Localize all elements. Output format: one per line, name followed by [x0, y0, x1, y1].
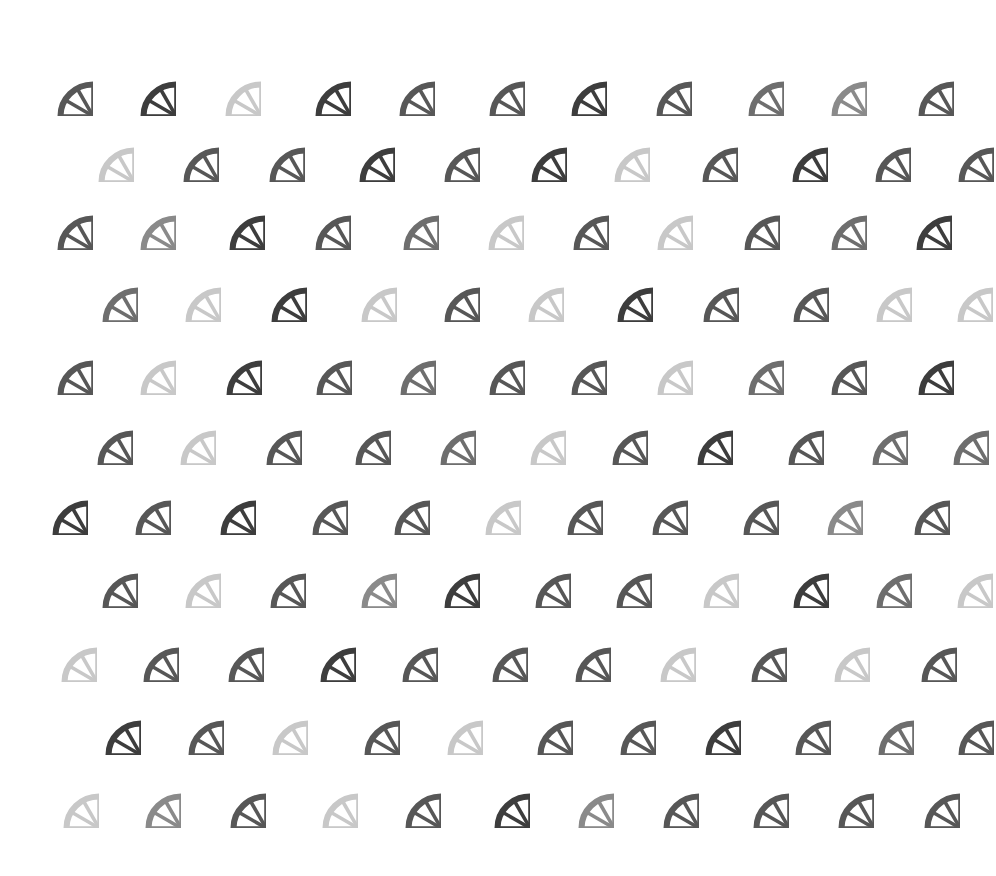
- wagon-wheel-icon: [194, 758, 266, 828]
- wagon-wheel-icon: [535, 46, 607, 116]
- wagon-wheel-icon: [233, 112, 305, 182]
- wagon-wheel-icon: [581, 252, 653, 322]
- wagon-wheel-icon: [627, 758, 699, 828]
- wagon-wheel-icon: [364, 325, 436, 395]
- wagon-wheel-icon: [922, 685, 994, 755]
- wagon-wheel-icon: [578, 112, 650, 182]
- wagon-wheel-icon: [624, 612, 696, 682]
- wagon-wheel-icon: [616, 465, 688, 535]
- wagon-wheel-icon: [885, 612, 957, 682]
- wagon-wheel-icon: [791, 465, 863, 535]
- wagon-wheel-icon: [66, 538, 138, 608]
- wagon-wheel-icon: [152, 685, 224, 755]
- wagon-wheel-icon: [712, 46, 784, 116]
- wagon-wheel-icon: [189, 46, 261, 116]
- wagon-wheel-icon: [535, 325, 607, 395]
- wagon-wheel-icon: [458, 758, 530, 828]
- wagon-wheel-icon: [501, 685, 573, 755]
- wagon-wheel-icon: [495, 112, 567, 182]
- wagon-wheel-icon: [286, 758, 358, 828]
- wagon-wheel-icon: [27, 758, 99, 828]
- wagon-wheel-icon: [917, 395, 989, 465]
- wagon-wheel-icon: [621, 180, 693, 250]
- wagon-wheel-icon: [190, 325, 262, 395]
- wagon-wheel-icon: [279, 180, 351, 250]
- wagon-wheel-icon: [708, 180, 780, 250]
- wagon-wheel-icon: [888, 758, 960, 828]
- wagon-wheel-icon: [542, 758, 614, 828]
- wagon-wheel-icon: [580, 538, 652, 608]
- wagon-wheel-icon: [576, 395, 648, 465]
- wagon-wheel-icon: [492, 252, 564, 322]
- wagon-wheel-icon: [882, 46, 954, 116]
- wagon-wheel-icon: [149, 538, 221, 608]
- wagon-wheel-icon: [839, 112, 911, 182]
- wagon-wheel-icon: [234, 538, 306, 608]
- wagon-wheel-icon: [452, 180, 524, 250]
- wagon-wheel-icon: [878, 465, 950, 535]
- wagon-wheel-icon: [840, 252, 912, 322]
- wagon-wheel-icon: [499, 538, 571, 608]
- wagon-wheel-icon: [280, 325, 352, 395]
- wagon-wheel-icon: [21, 46, 93, 116]
- wagon-wheel-icon: [921, 252, 993, 322]
- wagon-wheel-icon: [25, 612, 97, 682]
- wagon-wheel-icon: [61, 395, 133, 465]
- wagon-wheel-icon: [842, 685, 914, 755]
- wagon-wheel-icon: [404, 395, 476, 465]
- wagon-wheel-icon: [367, 180, 439, 250]
- wagon-wheel-icon: [184, 465, 256, 535]
- wagon-wheel-icon: [408, 112, 480, 182]
- wagon-wheel-icon: [707, 465, 779, 535]
- wagon-wheel-icon: [192, 612, 264, 682]
- wagon-wheel-icon: [494, 395, 566, 465]
- wagon-wheel-icon: [408, 252, 480, 322]
- wagon-wheel-icon: [99, 465, 171, 535]
- wagon-wheel-icon: [107, 612, 179, 682]
- wagon-wheel-icon: [363, 46, 435, 116]
- wagon-wheel-icon: [836, 395, 908, 465]
- wagon-wheel-icon: [620, 46, 692, 116]
- wagon-wheel-icon: [802, 758, 874, 828]
- wagon-wheel-icon: [325, 252, 397, 322]
- wagon-wheel-icon: [319, 395, 391, 465]
- wagon-wheel-icon: [109, 758, 181, 828]
- wagon-wheel-icon: [880, 180, 952, 250]
- wagon-wheel-icon: [21, 325, 93, 395]
- wagon-wheel-icon: [752, 395, 824, 465]
- wagon-wheel-icon: [798, 612, 870, 682]
- wagon-wheel-icon: [104, 180, 176, 250]
- wagon-wheel-icon: [284, 612, 356, 682]
- wagon-wheel-icon: [230, 395, 302, 465]
- wagon-wheel-icon: [667, 252, 739, 322]
- wagon-wheel-icon: [235, 252, 307, 322]
- wagon-wheel-icon: [323, 112, 395, 182]
- wagon-wheel-icon: [621, 325, 693, 395]
- wheel-pattern-canvas: [0, 0, 996, 876]
- wagon-wheel-icon: [21, 180, 93, 250]
- wagon-wheel-icon: [715, 612, 787, 682]
- wagon-wheel-icon: [358, 465, 430, 535]
- wagon-wheel-icon: [456, 612, 528, 682]
- wagon-wheel-icon: [69, 685, 141, 755]
- wagon-wheel-icon: [757, 538, 829, 608]
- wagon-wheel-icon: [795, 325, 867, 395]
- wagon-wheel-icon: [279, 46, 351, 116]
- wagon-wheel-icon: [795, 46, 867, 116]
- wagon-wheel-icon: [661, 395, 733, 465]
- wagon-wheel-icon: [921, 538, 993, 608]
- wagon-wheel-icon: [149, 252, 221, 322]
- wagon-wheel-icon: [366, 612, 438, 682]
- wagon-wheel-icon: [840, 538, 912, 608]
- wagon-wheel-icon: [147, 112, 219, 182]
- wagon-wheel-icon: [144, 395, 216, 465]
- wagon-wheel-icon: [712, 325, 784, 395]
- wagon-wheel-icon: [408, 538, 480, 608]
- wagon-wheel-icon: [276, 465, 348, 535]
- wagon-wheel-icon: [795, 180, 867, 250]
- wagon-wheel-icon: [66, 252, 138, 322]
- wagon-wheel-icon: [757, 252, 829, 322]
- wagon-wheel-icon: [584, 685, 656, 755]
- wagon-wheel-icon: [667, 538, 739, 608]
- wagon-wheel-icon: [449, 465, 521, 535]
